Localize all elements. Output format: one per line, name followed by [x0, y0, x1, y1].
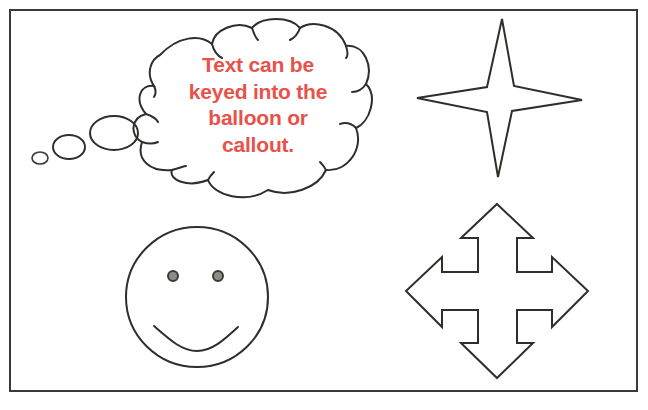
smiley-left-eye: [168, 271, 178, 281]
smiley-right-eye: [213, 271, 223, 281]
four-point-star-shape: [417, 19, 582, 177]
thought-bubble-large: [90, 116, 138, 150]
smiley-face-outline: [126, 227, 268, 367]
callout-text-line-1: Text can be: [168, 52, 348, 79]
thought-bubbles: [32, 116, 138, 164]
thought-bubble-medium: [53, 135, 85, 159]
callout-text-line-3: balloon or: [168, 105, 348, 132]
callout-text-line-4: callout.: [168, 132, 348, 159]
diagram-canvas: Text can be keyed into the balloon or ca…: [0, 0, 648, 410]
callout-text[interactable]: Text can be keyed into the balloon or ca…: [168, 52, 348, 158]
four-way-arrow-shape: [406, 204, 588, 378]
callout-text-line-2: keyed into the: [168, 79, 348, 106]
thought-bubble-small: [32, 152, 48, 164]
smiley-face: [126, 227, 268, 367]
smiley-mouth: [154, 326, 238, 351]
